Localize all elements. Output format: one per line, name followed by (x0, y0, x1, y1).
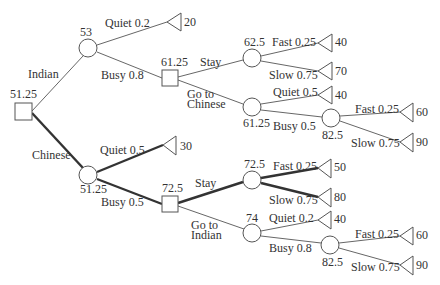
terminal-triangle-icon (167, 13, 181, 31)
edge-label-chinese-quiet: Quiet 0.5 (100, 143, 145, 157)
terminal-value: 60 (416, 228, 428, 242)
edge-label-fast: Fast 0.25 (272, 35, 316, 49)
chance-node-stay-indian (243, 49, 261, 67)
edge-label-fast: Fast 0.25 (355, 102, 399, 116)
edge-label-indian: Indian (28, 67, 59, 81)
node-value-stay-chinese: 72.5 (244, 157, 265, 171)
edge-label-fast: Fast 0.25 (273, 159, 317, 173)
chance-node-stay-chinese (243, 171, 261, 189)
node-value-indian: 53 (80, 25, 92, 39)
edge-label-chinese-busy: Busy 0.5 (101, 195, 144, 209)
terminal-triangle-icon (318, 159, 331, 178)
terminal-triangle-icon (318, 188, 331, 207)
decision-node-chinese-busy (162, 196, 178, 212)
node-value-goto-indian: 74 (246, 211, 258, 225)
edge-label-busy: Busy 0.5 (273, 119, 316, 133)
terminal-triangle-icon (400, 103, 413, 122)
terminal-value: 40 (335, 35, 347, 49)
edge-label-fast: Fast 0.25 (355, 227, 399, 241)
edge-label-goto-indian: Indian (191, 228, 222, 242)
edge-label-indian-quiet: Quiet 0.2 (105, 16, 150, 30)
chance-node-goto-chinese-busy (322, 109, 340, 127)
terminal-value: 30 (180, 139, 192, 153)
terminal-triangle-icon (400, 227, 413, 245)
node-value-chinese-busy: 72.5 (162, 181, 183, 195)
terminal-triangle-icon (318, 34, 332, 52)
terminal-triangle-icon (318, 86, 332, 104)
node-value-goto-chinese: 61.25 (243, 116, 270, 130)
edge-label-slow: Slow 0.75 (351, 260, 400, 274)
node-value-goto-indian-busy: 82.5 (322, 255, 343, 269)
terminal-triangle-icon (163, 136, 176, 155)
terminal-value: 40 (335, 88, 347, 102)
edge-goto-chi-busy (261, 110, 322, 117)
chance-node-goto-indian-busy (321, 236, 339, 254)
decision-tree-diagram: 51.25 53 20 61.25 62.5 40 70 61.25 40 82… (0, 0, 440, 285)
terminal-value: 20 (184, 15, 196, 29)
edge-label-indian-busy: Busy 0.8 (101, 68, 144, 82)
terminal-value: 60 (416, 105, 428, 119)
terminal-value: 40 (334, 212, 346, 226)
edge-label-stay: Stay (195, 176, 216, 190)
edge-label-quiet: Quiet 0.2 (269, 211, 314, 225)
edge-label-chinese: Chinese (32, 148, 71, 162)
edge-label-slow: Slow 0.75 (269, 193, 318, 207)
terminal-value: 90 (416, 135, 428, 149)
node-value-chinese: 51.25 (80, 182, 107, 196)
chance-node-goto-chinese (243, 98, 261, 116)
terminal-value: 70 (335, 64, 347, 78)
terminal-value: 90 (416, 258, 428, 272)
node-value-indian-busy: 61.25 (161, 55, 188, 69)
node-value-goto-chinese-busy: 82.5 (322, 128, 343, 142)
edge-label-slow: Slow 0.75 (351, 136, 400, 150)
chance-node-indian (79, 39, 97, 57)
terminal-triangle-icon (318, 62, 332, 80)
node-value-stay-indian: 62.5 (244, 35, 265, 49)
node-value-root: 51.25 (10, 87, 37, 101)
edge-label-quiet: Quiet 0.5 (273, 85, 318, 99)
edge-label-stay: Stay (200, 55, 221, 69)
decision-node-indian-busy (162, 70, 178, 86)
edge-label-goto-chinese: Chinese (187, 97, 226, 111)
terminal-value: 80 (334, 190, 346, 204)
terminal-triangle-icon (318, 211, 331, 229)
chance-node-goto-indian (243, 224, 261, 242)
edge-label-slow: Slow 0.75 (269, 68, 318, 82)
terminal-value: 50 (334, 160, 346, 174)
edge-indian (32, 56, 83, 111)
terminal-triangle-icon (400, 133, 413, 152)
decision-node-root (15, 103, 32, 120)
edge-label-busy: Busy 0.8 (269, 241, 312, 255)
terminal-triangle-icon (400, 256, 413, 275)
